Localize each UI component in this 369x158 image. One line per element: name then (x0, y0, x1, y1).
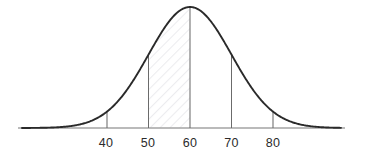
vertical-marker-lines (107, 7, 273, 128)
normal-distribution-chart-image: 4050607080 (0, 0, 369, 158)
tick-label-50: 50 (141, 136, 155, 150)
tick-label-70: 70 (224, 136, 238, 150)
shaded-region-50-to-60 (149, 0, 191, 128)
tick-label-80: 80 (266, 136, 280, 150)
x-axis-tick-labels: 4050607080 (99, 136, 280, 150)
shaded-region-group (149, 0, 191, 128)
tick-label-60: 60 (183, 136, 197, 150)
tick-label-40: 40 (99, 136, 113, 150)
bell-curve-chart: 4050607080 (0, 0, 369, 158)
